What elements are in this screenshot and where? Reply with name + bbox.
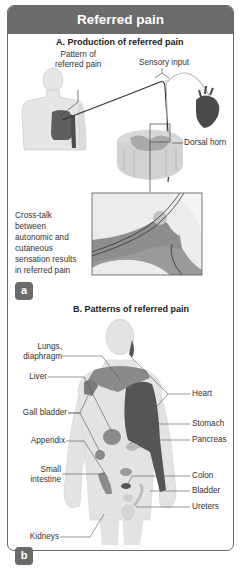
label-line: diaphragm	[20, 352, 62, 362]
label-gall-bladder: Gall bladder	[8, 408, 67, 418]
panel-b-badge: b	[15, 547, 33, 565]
dorsal-horn-zoom	[92, 193, 202, 275]
label-pancreas: Pancreas	[192, 435, 227, 445]
label-liver: Liver	[10, 372, 47, 382]
label-colon: Colon	[192, 471, 213, 481]
sensory-input-label: Sensory input	[139, 58, 189, 68]
label-kidneys: Kidneys	[10, 532, 59, 542]
crosstalk-label: Cross-talk between autonomic and cutaneo…	[15, 210, 76, 276]
crosstalk-line: cutaneous	[15, 243, 76, 254]
panel-a-badge: a	[15, 282, 33, 300]
label-small-intestine: Small intestine	[10, 465, 61, 485]
panel-b-title: B. Patterns of referred pain	[73, 304, 189, 314]
body-figure-b	[64, 319, 176, 545]
panel-a-title: A. Production of referred pain	[56, 37, 184, 47]
crosstalk-line: autonomic and	[15, 232, 76, 243]
label-lungs-diaphragm: Lungs, diaphragm	[20, 342, 62, 362]
label-ureters: Ureters	[192, 502, 219, 512]
label-stomach: Stomach	[192, 419, 224, 429]
crosstalk-line: between	[15, 221, 76, 232]
crosstalk-line: sensation results	[15, 254, 76, 265]
dorsal-horn-label: Dorsal horn	[184, 138, 226, 148]
pattern-label: Pattern of referred pain	[55, 50, 101, 70]
crosstalk-line: Cross-talk	[15, 210, 76, 221]
crosstalk-line: in referred pain	[15, 265, 76, 276]
torso-figure-a	[22, 68, 86, 150]
label-line: Lungs,	[20, 342, 62, 352]
label-bladder: Bladder	[192, 486, 220, 496]
label-heart: Heart	[192, 389, 212, 399]
pattern-label-line1: Pattern of	[55, 50, 101, 60]
label-line: intestine	[10, 475, 61, 485]
pattern-label-line2: referred pain	[55, 60, 101, 70]
label-line: Small	[10, 465, 61, 475]
label-appendix: Appendix	[10, 436, 65, 446]
